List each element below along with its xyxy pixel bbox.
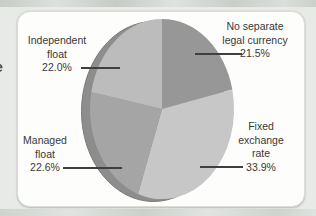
label-line: float (19, 48, 95, 62)
label-line: rate (221, 147, 301, 161)
leader-line-fixed (200, 166, 243, 168)
label-line: float (9, 148, 81, 162)
label-line: Independent (19, 34, 95, 48)
leader-line-managed (63, 167, 122, 169)
label-line: Fixed (221, 120, 301, 134)
leader-line-no-separate (195, 53, 242, 55)
figure-canvas: e No separate legal currency 21.5% Indep… (0, 0, 316, 216)
label-line: exchange (221, 134, 301, 148)
label-line: No separate (214, 20, 296, 34)
label-line: legal currency (214, 34, 296, 48)
label-line: Managed (9, 134, 81, 148)
leader-line-independent (81, 67, 120, 69)
